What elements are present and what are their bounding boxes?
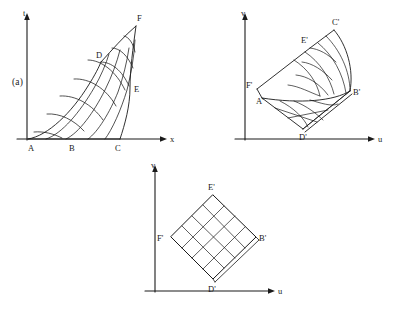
x-axis-label: x bbox=[170, 134, 175, 144]
label-E-prime: E' bbox=[301, 35, 308, 45]
panel-b-grid-lower bbox=[275, 91, 350, 129]
label-B: B bbox=[69, 143, 75, 153]
label-F-prime: F' bbox=[246, 80, 253, 90]
panel-b-plot: A' B' C' D' E' F' v u bbox=[200, 0, 397, 160]
label-A: A bbox=[28, 143, 35, 153]
x-axis-arrowhead bbox=[160, 136, 167, 142]
panel-b: (b) bbox=[200, 0, 397, 160]
u-axis-label: u bbox=[378, 134, 383, 144]
panel-a: (a) bbox=[0, 0, 200, 160]
u-axis-label: u bbox=[278, 286, 283, 296]
label-A-prime: A' bbox=[256, 96, 264, 106]
panel-b-grid-upper-family-2 bbox=[288, 48, 336, 96]
panel-b-grid-upper-family-1 bbox=[294, 36, 350, 96]
label-C-prime: C' bbox=[332, 17, 340, 27]
label-B-prime: B' bbox=[259, 233, 267, 243]
panel-b-region-boundary bbox=[257, 30, 352, 132]
label-D-prime: D' bbox=[208, 284, 216, 294]
label-B-prime: B' bbox=[353, 87, 361, 97]
label-E: E bbox=[134, 84, 139, 94]
panel-c: (c) bbox=[100, 152, 300, 309]
u-axis-arrowhead bbox=[368, 136, 375, 142]
panel-b-axes bbox=[235, 13, 375, 142]
label-D-prime: D' bbox=[299, 132, 307, 142]
panel-a-grid-family-1 bbox=[46, 40, 135, 139]
label-F: F bbox=[137, 13, 142, 23]
label-E-prime: E' bbox=[208, 182, 215, 192]
panel-a-region-boundary bbox=[28, 26, 136, 139]
label-D: D bbox=[96, 50, 102, 60]
panel-c-plot: B' D' E' F' v u bbox=[100, 152, 300, 309]
panel-a-tag: (a) bbox=[12, 77, 23, 87]
label-F-prime: F' bbox=[157, 233, 164, 243]
panel-a-plot: A B C D E F t x bbox=[0, 0, 200, 160]
panel-a-axes bbox=[17, 13, 167, 142]
t-axis-label: t bbox=[23, 8, 26, 18]
u-axis-arrowhead bbox=[268, 288, 275, 294]
